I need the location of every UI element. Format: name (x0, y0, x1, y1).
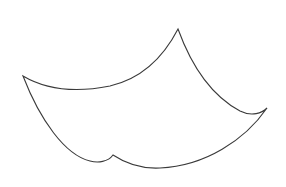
cloth-outline (23, 29, 267, 168)
cloth-shape-icon (0, 0, 286, 187)
drawing-canvas (0, 0, 286, 187)
